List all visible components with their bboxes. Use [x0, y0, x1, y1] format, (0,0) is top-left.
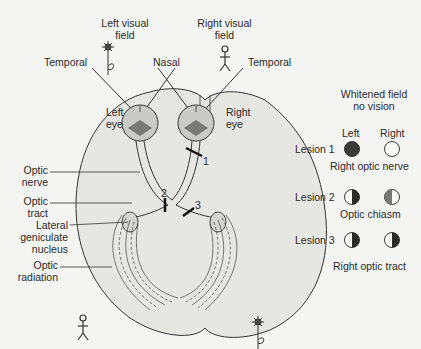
lesion-2-fields	[345, 190, 400, 205]
left-visual-field-label: Left visual field	[90, 17, 160, 41]
left-eye-label: Left eye	[106, 106, 124, 130]
lesion-2-number: 2	[161, 187, 167, 199]
nasal-label: Nasal	[153, 56, 180, 68]
brain-illustration	[0, 0, 421, 349]
right-eye-label: Right eye	[226, 106, 251, 130]
right-lgn	[210, 212, 226, 232]
lesion-3-fields	[345, 233, 400, 248]
optic-radiation-label: Optic radiation	[8, 259, 58, 283]
legend-header: Whitened field no vision	[328, 88, 420, 112]
person-icon	[220, 46, 230, 71]
left-eye-icon	[122, 105, 158, 141]
legend-col-right: Right	[380, 127, 405, 139]
visual-pathway-diagram: Left visual field Right visual field Tem…	[0, 0, 421, 349]
temporal-right-label: Temporal	[248, 56, 291, 68]
right-visual-field-label: Right visual field	[187, 17, 262, 41]
person-icon-inverted-field	[78, 315, 88, 340]
lesion-2-caption: Optic chiasm	[340, 208, 401, 220]
flower-icon	[102, 41, 114, 75]
temporal-left-label: Temporal	[44, 56, 87, 68]
optic-tract-label: Optic tract	[14, 195, 48, 219]
lesion-1-label: Lesion 1	[295, 143, 335, 155]
optic-nerve-label: Optic nerve	[14, 164, 48, 188]
lgn-label: Lateral geniculate nucleus	[8, 219, 68, 255]
lesion-1-number: 1	[203, 155, 209, 167]
lesion-1-fields	[345, 142, 400, 157]
legend-col-left: Left	[342, 127, 360, 139]
lesion-3-label: Lesion 3	[295, 234, 335, 246]
lesion-3-number: 3	[195, 199, 201, 211]
lesion-3-caption: Right optic tract	[333, 260, 406, 272]
right-eye-icon	[178, 105, 214, 141]
lesion-1-caption: Right optic nerve	[330, 160, 409, 172]
lesion-2-label: Lesion 2	[295, 191, 335, 203]
